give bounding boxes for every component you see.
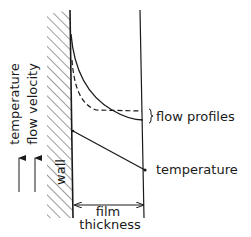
temperature-end-dot	[143, 168, 146, 171]
wall	[47, 10, 73, 218]
temperature-profile-line	[73, 131, 145, 170]
temperature-start-dot	[72, 130, 75, 133]
temperature-label: temperature	[156, 162, 238, 177]
film-boundary-line	[140, 10, 144, 218]
axis-flow-velocity-label: flow velocity	[25, 63, 40, 145]
flow-profiles-brace	[149, 109, 153, 123]
flow-profile-dashed-curve	[72, 60, 142, 111]
wall-hatching	[47, 10, 72, 218]
axis-temperature-label: temperature	[7, 63, 22, 145]
wall-label: wall	[53, 159, 68, 185]
flow-profiles-label: flow profiles	[156, 109, 235, 124]
flow-profile-solid-curve	[71, 34, 143, 120]
film-thickness-label-line2: thickness	[79, 217, 141, 232]
film-profile-diagram: flow profiles temperature film thickness…	[0, 0, 251, 237]
